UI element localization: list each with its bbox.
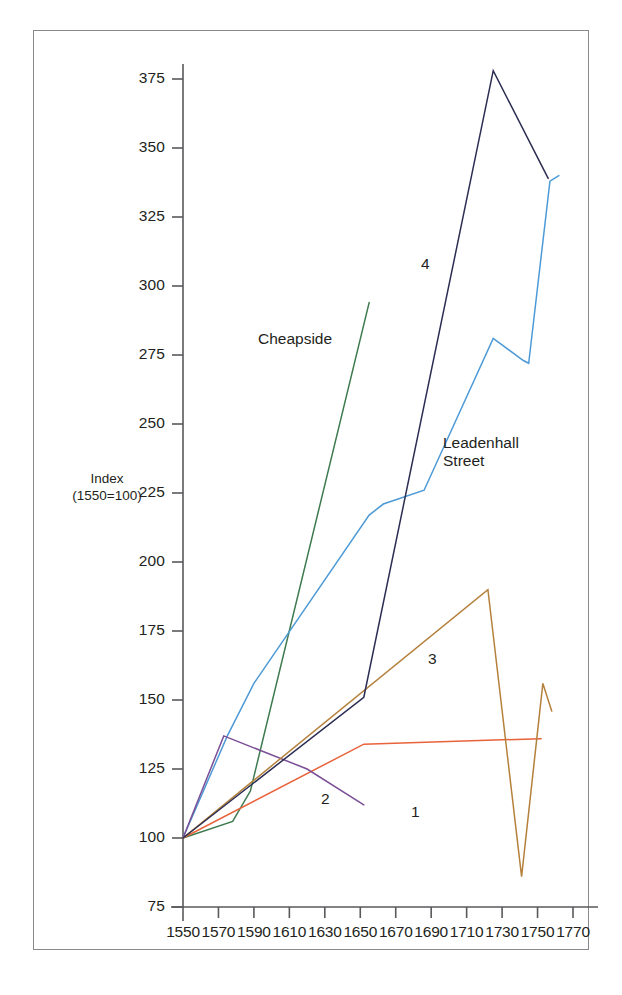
y-axis-tick-label: 300 bbox=[105, 276, 165, 294]
y-axis-tick-label: 125 bbox=[105, 759, 165, 777]
series-line-2 bbox=[183, 736, 364, 838]
series-line-4 bbox=[183, 71, 548, 838]
series-line-cheapside bbox=[183, 303, 369, 838]
y-axis-tick-label: 175 bbox=[105, 621, 165, 639]
series-line-1 bbox=[183, 739, 541, 838]
y-axis-tick-label: 150 bbox=[105, 690, 165, 708]
y-axis-tick-label: 325 bbox=[105, 207, 165, 225]
y-axis-tick-label: 75 bbox=[105, 897, 165, 915]
series-label-3: 3 bbox=[428, 650, 437, 668]
y-axis-tick-label: 100 bbox=[105, 828, 165, 846]
x-axis-tick-label: 1770 bbox=[545, 923, 601, 941]
y-axis-tick-label: 375 bbox=[105, 69, 165, 87]
y-axis-title-line1: Index bbox=[52, 470, 162, 487]
series-label-cheapside: Cheapside bbox=[258, 330, 332, 348]
y-axis-title: Index(1550=100) bbox=[52, 470, 162, 504]
y-axis-tick-label: 350 bbox=[105, 138, 165, 156]
series-label-2: 2 bbox=[321, 790, 330, 808]
y-axis-tick-label: 200 bbox=[105, 552, 165, 570]
series-line-3 bbox=[183, 590, 552, 877]
series-label-4: 4 bbox=[421, 255, 430, 273]
y-axis-tick-label: 250 bbox=[105, 414, 165, 432]
series-label-1: 1 bbox=[411, 803, 420, 821]
y-axis-title-line2: (1550=100) bbox=[52, 487, 162, 504]
series-label-street: Street bbox=[443, 452, 484, 470]
series-label-leadenhall: Leadenhall bbox=[443, 434, 519, 452]
series-line-leadenhall-street bbox=[183, 176, 559, 838]
y-axis-tick-label: 275 bbox=[105, 345, 165, 363]
